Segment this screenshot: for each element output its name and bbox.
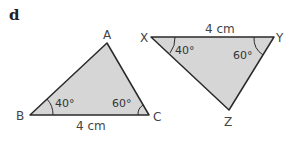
congruent-triangles-diagram: d A B C 40° 60° 4 cm X Y Z 40° 60° 4 cm <box>0 0 299 143</box>
triangle-xyz-shape <box>151 37 274 110</box>
vertex-b-label: B <box>16 109 24 123</box>
vertex-z-label: Z <box>224 115 232 129</box>
vertex-x-label: X <box>140 31 148 45</box>
vertex-y-label: Y <box>275 31 284 45</box>
angle-x-label: 40° <box>175 44 195 57</box>
triangle-xyz: X Y Z 40° 60° 4 cm <box>140 22 284 129</box>
part-label: d <box>9 6 20 24</box>
angle-y-label: 60° <box>233 49 253 62</box>
vertex-c-label: C <box>153 110 161 124</box>
angle-b-label: 40° <box>55 97 75 110</box>
angle-c-label: 60° <box>112 97 132 110</box>
side-xy-label: 4 cm <box>205 22 235 36</box>
side-bc-label: 4 cm <box>76 119 106 133</box>
vertex-a-label: A <box>103 28 112 42</box>
